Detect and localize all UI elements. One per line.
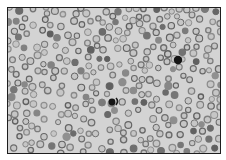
red-blood-cell <box>83 94 88 99</box>
red-blood-cell <box>204 53 209 58</box>
red-blood-cell <box>122 15 127 20</box>
red-blood-cell <box>115 45 121 51</box>
red-blood-cell <box>125 110 131 116</box>
red-blood-cell <box>157 131 163 137</box>
red-blood-cell <box>206 68 211 73</box>
red-blood-cell <box>16 8 23 14</box>
red-blood-cell <box>30 101 37 108</box>
red-blood-cell <box>138 62 144 68</box>
red-blood-cell <box>139 92 145 98</box>
red-blood-cell <box>169 9 174 14</box>
red-blood-cell <box>67 144 73 150</box>
red-blood-cell <box>156 37 162 43</box>
red-blood-cell <box>136 20 142 26</box>
red-blood-cell <box>79 22 85 28</box>
red-blood-cell <box>217 104 220 110</box>
red-blood-cell <box>8 101 10 106</box>
red-blood-cell <box>153 29 159 35</box>
red-blood-cell <box>105 112 111 118</box>
red-blood-cell <box>166 132 172 138</box>
dark-cell-upper-right <box>174 56 182 64</box>
red-blood-cell <box>149 102 155 108</box>
red-blood-cell <box>165 51 171 57</box>
red-blood-cell <box>131 65 136 70</box>
red-blood-cell <box>39 82 45 88</box>
red-blood-cell <box>121 130 127 136</box>
red-blood-cell <box>212 145 218 151</box>
red-blood-cell <box>190 66 196 72</box>
red-blood-cell <box>140 128 145 133</box>
red-blood-cell <box>136 83 142 89</box>
red-blood-cell <box>17 134 22 139</box>
red-blood-cell <box>13 119 18 124</box>
red-blood-cell <box>125 122 132 129</box>
red-blood-cell <box>11 145 17 151</box>
red-blood-cell <box>144 32 150 38</box>
red-blood-cell <box>194 151 200 153</box>
red-blood-cell <box>130 145 137 152</box>
red-blood-cell <box>41 102 47 108</box>
red-blood-cell <box>115 125 121 131</box>
red-blood-cell <box>8 81 10 86</box>
red-blood-cell <box>170 42 176 48</box>
red-blood-cell <box>19 24 25 30</box>
red-blood-cell <box>170 117 177 124</box>
red-blood-cell <box>194 44 199 49</box>
red-blood-cell <box>9 67 15 73</box>
red-blood-cell <box>147 136 153 142</box>
red-blood-cell <box>174 14 179 19</box>
red-blood-cell <box>88 19 93 24</box>
red-blood-cell <box>56 120 61 125</box>
red-blood-cell <box>113 19 118 24</box>
red-blood-cell <box>92 130 98 136</box>
red-blood-cell <box>27 58 34 65</box>
red-blood-cell <box>58 23 64 29</box>
red-blood-cell <box>29 123 35 129</box>
red-blood-cell <box>107 63 114 70</box>
red-blood-cell <box>132 76 138 82</box>
red-blood-cell <box>57 89 64 96</box>
red-blood-cell <box>35 126 41 132</box>
red-blood-cell <box>44 11 49 16</box>
red-blood-cell <box>115 28 122 35</box>
red-blood-cell <box>71 131 77 137</box>
red-blood-cell <box>24 31 29 36</box>
red-blood-cell <box>52 68 59 75</box>
red-blood-cell <box>105 35 112 42</box>
red-blood-cell <box>48 62 54 68</box>
red-blood-cell <box>76 48 81 53</box>
red-blood-cell <box>208 103 214 109</box>
red-blood-cell <box>65 32 72 39</box>
red-blood-cell <box>143 56 148 61</box>
red-blood-cell <box>205 46 212 53</box>
red-blood-cell <box>119 79 126 86</box>
red-blood-cell <box>178 142 183 147</box>
red-blood-cell <box>78 8 84 11</box>
red-blood-cell <box>185 38 191 44</box>
red-blood-cell <box>211 112 218 119</box>
red-blood-cell <box>146 91 152 97</box>
red-blood-cell <box>174 32 180 38</box>
red-blood-cell <box>41 50 47 56</box>
red-blood-cell <box>200 69 205 74</box>
red-blood-cell <box>74 33 79 38</box>
red-blood-cell <box>35 68 41 74</box>
red-blood-cell <box>47 31 53 37</box>
red-blood-cell <box>98 65 104 71</box>
red-blood-cell <box>157 16 163 22</box>
red-blood-cell <box>160 24 165 29</box>
red-blood-cell <box>43 8 48 10</box>
red-blood-cell <box>193 59 199 65</box>
red-blood-cell <box>158 55 163 60</box>
red-blood-cell <box>81 116 87 122</box>
red-blood-cell <box>130 87 136 93</box>
red-blood-cell <box>196 35 203 42</box>
red-blood-cell <box>22 82 27 87</box>
red-blood-cell <box>146 62 153 69</box>
red-blood-cell <box>11 28 17 34</box>
red-blood-cell <box>71 93 77 99</box>
red-blood-cell <box>181 113 187 119</box>
red-blood-cell <box>24 129 30 135</box>
red-blood-cell <box>120 35 127 42</box>
red-blood-cell <box>11 111 18 118</box>
